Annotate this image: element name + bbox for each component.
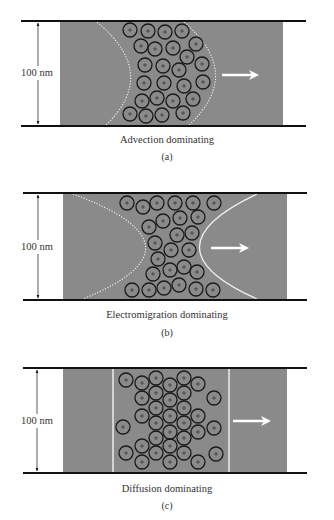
channel-fill <box>63 193 287 300</box>
panel-c-label: (c) <box>0 500 334 512</box>
panel-c-caption: Diffusion dominating <box>0 483 334 495</box>
panel-b-label: (b) <box>0 327 334 339</box>
panel-a <box>21 21 306 126</box>
panel-a-label: (a) <box>0 151 334 163</box>
panel-a-dimension-label: 100 nm <box>21 66 53 80</box>
panel-b <box>23 193 307 300</box>
panel-b-dimension-label: 100 nm <box>21 240 53 254</box>
panel-b-caption: Electromigration dominating <box>0 309 334 321</box>
figure-canvas: 100 nm Advection dominating (a) 100 nm E… <box>0 0 334 520</box>
panel-c-dimension-label: 100 nm <box>21 414 53 428</box>
panel-c <box>23 368 307 473</box>
panel-a-caption: Advection dominating <box>0 134 334 146</box>
channel-fill <box>60 21 283 126</box>
